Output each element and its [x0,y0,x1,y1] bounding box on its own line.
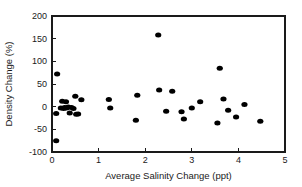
data-point [217,66,223,71]
y-tick-label: 200 [32,11,47,21]
scatter-chart-figure: -100-50050100150200012345Average Salinit… [0,0,302,187]
x-tick-label: 4 [236,155,241,165]
x-tick-label: 2 [143,155,148,165]
y-tick-label: -100 [29,147,47,157]
data-point [54,72,60,77]
x-tick-label: 1 [96,155,101,165]
data-point [220,96,226,101]
data-point [134,93,140,98]
data-point [53,138,59,143]
data-point [53,111,59,116]
x-axis-title: Average Salinity Change (ppt) [105,170,232,181]
data-point [257,119,263,124]
y-tick-label: 0 [42,102,47,112]
chart-canvas: -100-50050100150200012345Average Salinit… [0,0,302,187]
y-tick-label: 100 [32,56,47,66]
y-tick-label: 150 [32,34,47,44]
data-point [241,102,247,107]
data-point [233,115,239,120]
data-point [106,97,112,102]
data-point [181,116,187,121]
y-tick-label: 50 [37,79,47,89]
data-point [133,118,139,123]
data-point [70,106,76,111]
data-point [67,111,73,116]
x-tick-label: 5 [282,155,287,165]
data-point [155,33,161,38]
data-point [169,89,175,94]
x-tick-label: 0 [49,155,54,165]
plot-frame [52,16,285,152]
data-point [72,94,78,99]
x-tick-label: 3 [189,155,194,165]
data-point [156,87,162,92]
y-tick-label: -50 [34,124,47,134]
data-point [63,99,69,104]
data-point [214,120,220,125]
data-point [163,109,169,114]
data-point [189,106,195,111]
data-point [107,106,113,111]
data-point [78,97,84,102]
data-point [75,111,81,116]
data-point [225,108,231,113]
data-point-group [53,33,263,144]
data-point [197,99,203,104]
data-point [178,109,184,114]
y-axis-title: Density Change (%) [3,41,14,126]
